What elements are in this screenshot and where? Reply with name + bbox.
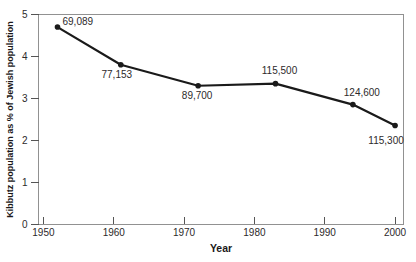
y-tick-label-3: 3 xyxy=(22,93,28,104)
plot-frame xyxy=(39,15,404,225)
y-tick-label-4: 4 xyxy=(22,51,28,62)
data-point-1994 xyxy=(350,102,356,108)
data-point-label-2000: 115,300 xyxy=(368,135,404,146)
data-point-1983 xyxy=(273,81,279,87)
x-tick-label-1980: 1980 xyxy=(243,227,266,238)
x-tick-label-1990: 1990 xyxy=(314,227,337,238)
data-point-label-1983: 115,500 xyxy=(262,65,298,76)
data-point-2000 xyxy=(392,123,398,129)
data-point-1961 xyxy=(118,62,124,68)
y-tick-label-0: 0 xyxy=(22,219,28,230)
y-tick-label-2: 2 xyxy=(22,135,28,146)
chart-plot-area: 19501960197019801990200001234569,08977,1… xyxy=(22,9,407,238)
data-point-label-1952: 69,089 xyxy=(62,16,93,27)
x-tick-label-1960: 1960 xyxy=(103,227,126,238)
kibbutz-population-chart-figure: 19501960197019801990200001234569,08977,1… xyxy=(0,0,416,262)
y-tick-label-5: 5 xyxy=(22,9,28,20)
y-tick-label-1: 1 xyxy=(22,177,28,188)
data-point-label-1994: 124,600 xyxy=(344,87,381,98)
data-point-1952 xyxy=(55,24,61,30)
x-tick-label-1970: 1970 xyxy=(173,227,196,238)
kibbutz-population-line-chart: 19501960197019801990200001234569,08977,1… xyxy=(0,0,416,262)
y-axis-title: Kibbutz population as % of Jewish popula… xyxy=(5,21,15,218)
x-axis-title: Year xyxy=(210,242,232,254)
data-point-1972 xyxy=(195,83,201,89)
data-point-label-1972: 89,700 xyxy=(182,90,213,101)
data-point-label-1961: 77,153 xyxy=(101,69,132,80)
x-tick-label-2000: 2000 xyxy=(384,227,407,238)
x-tick-label-1950: 1950 xyxy=(32,227,55,238)
